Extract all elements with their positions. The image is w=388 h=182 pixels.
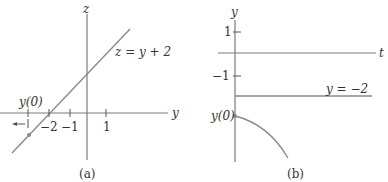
initial-point-dot — [27, 133, 31, 137]
caption-b: (b) — [287, 167, 304, 181]
t-axis-label: t — [379, 46, 384, 60]
tick-label-minus-1: −1 — [61, 120, 79, 134]
solution-curve — [235, 116, 288, 158]
panel-b: y t 1 −1 y = −2 y(0) (b) — [210, 5, 384, 181]
caption-a: (a) — [79, 167, 96, 181]
arrow-left-icon — [12, 122, 17, 126]
y0-label-b: y(0) — [210, 109, 235, 123]
y-axis-label-b: y — [230, 5, 238, 19]
equilibrium-label: y = −2 — [325, 82, 368, 96]
line-label: z = y + 2 — [114, 45, 171, 59]
panel-a: z y z = y + 2 y(0) −2 −1 1 (a) — [0, 2, 179, 181]
y-axis-label: y — [171, 106, 179, 120]
y0-label: y(0) — [18, 95, 43, 109]
tick-label-1: 1 — [103, 120, 111, 134]
tick-label-minus-1-b: −1 — [212, 69, 230, 83]
z-axis-label: z — [82, 2, 90, 16]
diagram-canvas: z y z = y + 2 y(0) −2 −1 1 (a) y t 1 −1 … — [0, 0, 388, 182]
tick-label-minus-2: −2 — [40, 120, 58, 134]
tick-label-1-b: 1 — [224, 25, 232, 39]
